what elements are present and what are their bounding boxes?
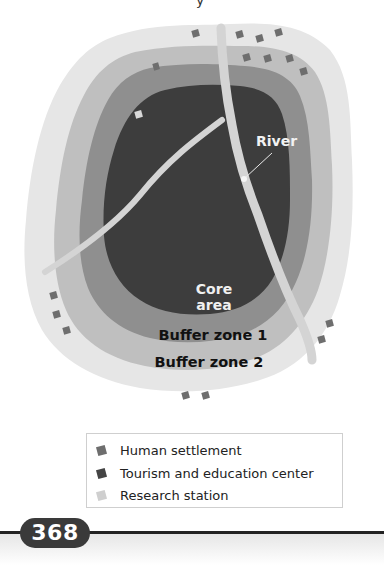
core-area-label-line2: area (174, 298, 254, 314)
research-square-icon (96, 489, 107, 500)
legend-item-human-settlement: Human settlement (97, 439, 242, 461)
buffer-zone-1-label: Buffer zone 1 (138, 327, 288, 343)
river-label: River (256, 134, 297, 150)
core-area-label-line1: Core (174, 282, 254, 298)
river-pointer-dot (241, 176, 247, 182)
tourism-square-icon (96, 467, 107, 478)
legend: Human settlement Tourism and education c… (86, 433, 343, 508)
legend-label: Research station (120, 488, 229, 503)
legend-label: Tourism and education center (120, 466, 314, 481)
legend-label: Human settlement (120, 443, 242, 458)
buffer-zone-2-label: Buffer zone 2 (134, 354, 284, 370)
legend-item-research-station: Research station (97, 484, 229, 506)
settlement-square-icon (201, 391, 210, 400)
core-area-label: Core area (174, 282, 254, 313)
settlement-square-icon (181, 391, 190, 400)
legend-item-tourism-education: Tourism and education center (97, 462, 314, 484)
page-number-badge: 368 (20, 518, 90, 548)
settlement-square-icon (96, 444, 107, 455)
